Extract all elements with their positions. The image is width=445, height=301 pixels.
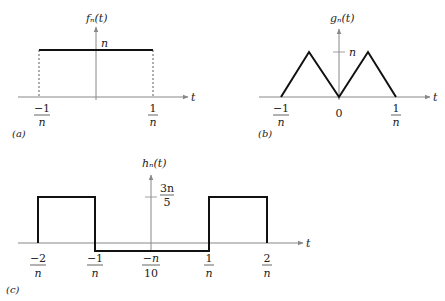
function-title: gₙ(t) — [330, 12, 355, 25]
tick-2-over-n-den: n — [263, 267, 270, 280]
tick-neg-2-over-n-num: −2 — [30, 252, 46, 265]
function-title: fₙ(t) — [85, 12, 108, 25]
height-label-num: 3n — [160, 182, 174, 195]
tick-1-over-n-den: n — [392, 116, 399, 129]
panel-c: t hₙ(t) 3n 5 −2 n −1 n −n 10 1 n 2 n (c) — [6, 157, 311, 295]
t-axis-label: t — [433, 91, 438, 104]
panel-a: t fₙ(t) n −1 n 1 n (a) — [12, 12, 196, 139]
panel-tag: (a) — [12, 128, 26, 139]
signal-diagrams: t fₙ(t) n −1 n 1 n (a) t gₙ(t) n −1 n 0 … — [0, 0, 445, 301]
low-level-den: 10 — [144, 267, 158, 280]
tick-neg-1-over-n-den: n — [38, 116, 45, 129]
tick-1-over-n-den: n — [205, 267, 212, 280]
panel-b: t gₙ(t) n −1 n 0 1 n (b) — [258, 12, 438, 139]
height-label: n — [349, 46, 356, 59]
tick-neg-2-over-n-den: n — [34, 267, 41, 280]
low-level-num: −n — [143, 252, 159, 265]
panel-tag: (b) — [258, 128, 272, 139]
tick-1-over-n-num: 1 — [206, 252, 213, 265]
tick-1-over-n-den: n — [149, 116, 156, 129]
tick-neg-1-over-n-den: n — [277, 116, 284, 129]
tick-neg-1-over-n-num: −1 — [34, 102, 50, 115]
height-label: n — [101, 37, 108, 50]
tick-neg-1-over-n-den: n — [91, 267, 98, 280]
tick-zero: 0 — [336, 107, 343, 120]
tick-neg-1-over-n-num: −1 — [273, 102, 289, 115]
tick-1-over-n-num: 1 — [393, 102, 400, 115]
t-axis-label: t — [306, 237, 311, 250]
tick-1-over-n-num: 1 — [150, 102, 157, 115]
panel-tag: (c) — [6, 284, 20, 295]
tick-2-over-n-num: 2 — [264, 252, 271, 265]
height-label-den: 5 — [164, 196, 171, 209]
t-axis-label: t — [191, 91, 196, 104]
function-title: hₙ(t) — [142, 157, 167, 170]
tick-neg-1-over-n-num: −1 — [87, 252, 103, 265]
